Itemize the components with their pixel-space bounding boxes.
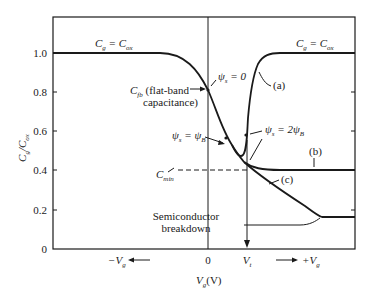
cfb-label-line2: capacitance): [143, 96, 198, 109]
pos-vg-arrowhead: [292, 258, 298, 263]
neg-vg-label: −Vg: [108, 254, 126, 269]
cfb-arrowhead: [200, 87, 206, 92]
y-tick-0: 0: [42, 243, 48, 255]
y-tick-0.8: 0.8: [33, 86, 47, 98]
cmin-arrow: [168, 168, 174, 172]
y-tick-0.2: 0.2: [33, 204, 47, 216]
svg-text:Cg/Cox: Cg/Cox: [16, 133, 31, 162]
cmin-label: Cmin: [156, 168, 174, 183]
y-axis-label: Cg/Cox: [16, 133, 31, 162]
curve-c-label: (c): [281, 173, 294, 186]
curve-a-arrow: [259, 72, 271, 86]
vt-arrowhead: [244, 240, 250, 248]
cg-cox-left-label: Cg = Cox: [95, 37, 134, 52]
neg-vg-arrowhead: [128, 258, 134, 263]
x-tick-vt: Vt: [243, 254, 253, 269]
curve-a-label: (a): [273, 79, 286, 92]
psiB-arrowhead: [218, 140, 225, 145]
psi2B-leader: [250, 139, 262, 160]
flatband-point: [206, 88, 209, 91]
psi0-label: ψs = 0: [218, 70, 247, 85]
curve-b: [244, 162, 355, 170]
x-axis-label: Vg(V): [196, 274, 222, 289]
psi2B-arrow: [250, 131, 262, 134]
breakdown-label-line1: Semiconductor: [153, 210, 220, 222]
curve-a: [232, 53, 355, 156]
y-tick-0.4: 0.4: [33, 164, 47, 176]
y-tick-1.0: 1.0: [33, 47, 47, 59]
psiB-point: [224, 136, 227, 139]
y-ticks: [53, 53, 355, 210]
pos-vg-label: +Vg: [302, 254, 320, 269]
x-tick-0: 0: [205, 254, 211, 266]
y-tick-0.6: 0.6: [33, 125, 47, 137]
psi2B-label: ψs = 2ψB: [265, 123, 305, 138]
breakdown-arrow: [244, 218, 320, 225]
psi0-arrow: [211, 80, 216, 86]
cg-cox-right-label: Cg = Cox: [296, 37, 335, 52]
psi2B-point: [244, 133, 247, 136]
cv-curve-diagram: 1.0 0.8 0.6 0.4 0.2 0 Cg/Cox Cg = Cox Cg…: [0, 0, 374, 299]
psiB-label: ψs = ψB: [172, 129, 206, 144]
curve-b-label: (b): [309, 145, 322, 158]
breakdown-label-line2: breakdown: [162, 222, 211, 234]
